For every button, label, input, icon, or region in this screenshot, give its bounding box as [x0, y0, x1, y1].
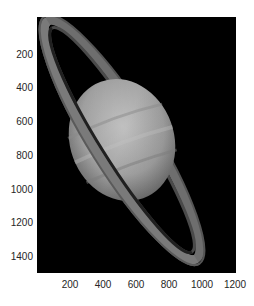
y-tick-label: 1200	[11, 217, 33, 228]
y-tick-label: 800	[16, 150, 33, 161]
y-tick-label: 400	[16, 82, 33, 93]
y-tick-label: 200	[16, 49, 33, 60]
x-tick-label: 800	[161, 279, 178, 290]
y-tick-label: 600	[16, 116, 33, 127]
image-axes	[37, 17, 236, 273]
saturn-image	[37, 17, 236, 273]
y-tick-label: 1000	[11, 184, 33, 195]
figure-window: 200 400 600 800 1000 1200 1400 200 400 6…	[0, 0, 254, 306]
x-tick-label: 1000	[191, 279, 213, 290]
x-tick-label: 1200	[224, 279, 246, 290]
x-tick-label: 400	[95, 279, 112, 290]
x-tick-label: 600	[128, 279, 145, 290]
y-tick-label: 1400	[11, 251, 33, 262]
x-tick-label: 200	[62, 279, 79, 290]
